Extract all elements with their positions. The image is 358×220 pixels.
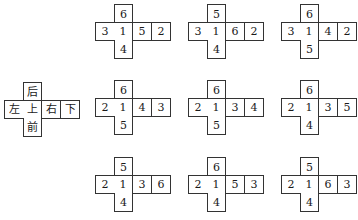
net-cell-row: 1 — [207, 98, 226, 117]
net-cell-row: 6 — [152, 175, 171, 194]
net-cell-top: 6 — [300, 4, 319, 23]
net-cell-row: 4 — [133, 98, 152, 117]
net-cell-row: 2 — [245, 22, 264, 41]
net-cell-bottom: 4 — [300, 193, 319, 212]
net-cell-row: 6 — [319, 175, 338, 194]
net-cell-top: 6 — [207, 80, 226, 99]
net-cell-bottom: 5 — [114, 116, 133, 135]
net-cell-row: 1 — [300, 22, 319, 41]
cube-net-4: 6 2 1 4 3 5 — [95, 80, 173, 137]
net-cell-top: 6 — [114, 80, 133, 99]
net-cell-row: 2 — [95, 175, 115, 194]
net-cell-row: 4 — [245, 98, 264, 117]
net-cell-bottom: 4 — [207, 193, 226, 212]
cube-net-1: 6 3 1 5 2 4 — [95, 4, 173, 61]
cube-net-7: 5 2 1 3 6 4 — [95, 157, 173, 214]
net-cell-top: 5 — [207, 4, 226, 23]
legend-face-right: 右 — [42, 100, 61, 119]
legend-face-front: 前 — [23, 118, 42, 137]
net-cell-top: 6 — [114, 4, 133, 23]
net-cell-row: 2 — [95, 98, 115, 117]
cube-net-6: 6 2 1 3 5 4 — [281, 80, 358, 137]
cube-net-5: 6 2 1 3 4 5 — [188, 80, 266, 137]
legend-face-top: 上 — [23, 100, 42, 119]
net-cell-row: 1 — [114, 22, 133, 41]
net-cell-bottom: 5 — [300, 40, 319, 59]
net-cell-row: 2 — [338, 22, 357, 41]
net-cell-top: 5 — [114, 157, 133, 176]
cube-net-3: 6 3 1 4 2 5 — [281, 4, 358, 61]
net-cell-row: 3 — [338, 175, 357, 194]
net-cell-row: 5 — [338, 98, 357, 117]
cube-net-2: 5 3 1 6 2 4 — [188, 4, 266, 61]
net-cell-row: 3 — [152, 98, 171, 117]
cube-net-8: 6 2 1 5 3 4 — [188, 157, 266, 214]
net-cell-row: 1 — [114, 98, 133, 117]
legend-face-bottom: 下 — [61, 100, 80, 119]
net-cell-row: 2 — [152, 22, 171, 41]
net-cell-row: 1 — [300, 98, 319, 117]
net-cell-row: 5 — [226, 175, 245, 194]
net-cell-row: 3 — [226, 98, 245, 117]
net-cell-row: 6 — [226, 22, 245, 41]
net-cell-bottom: 4 — [300, 116, 319, 135]
cube-net-9: 5 2 1 6 3 4 — [281, 157, 358, 214]
net-cell-row: 1 — [207, 175, 226, 194]
net-cell-row: 1 — [207, 22, 226, 41]
net-cell-bottom: 4 — [114, 193, 133, 212]
net-cell-row: 3 — [245, 175, 264, 194]
net-cell-row: 5 — [133, 22, 152, 41]
net-cell-row: 2 — [188, 98, 208, 117]
net-cell-top: 5 — [300, 157, 319, 176]
net-cell-row: 3 — [133, 175, 152, 194]
net-cell-row: 2 — [281, 98, 301, 117]
net-cell-bottom: 5 — [207, 116, 226, 135]
net-cell-top: 6 — [300, 80, 319, 99]
net-cell-row: 2 — [281, 175, 301, 194]
net-cell-row: 1 — [300, 175, 319, 194]
net-cell-row: 1 — [114, 175, 133, 194]
net-cell-row: 3 — [95, 22, 115, 41]
net-cell-top: 6 — [207, 157, 226, 176]
net-cell-bottom: 4 — [207, 40, 226, 59]
net-cell-bottom: 4 — [114, 40, 133, 59]
net-cell-row: 3 — [281, 22, 301, 41]
net-cell-row: 3 — [188, 22, 208, 41]
legend-face-left: 左 — [4, 100, 24, 119]
net-cell-row: 2 — [188, 175, 208, 194]
legend-cube-net: 后 左 上 右 下 前 — [4, 82, 82, 139]
net-cell-row: 4 — [319, 22, 338, 41]
legend-face-back: 后 — [23, 82, 42, 101]
net-cell-row: 3 — [319, 98, 338, 117]
